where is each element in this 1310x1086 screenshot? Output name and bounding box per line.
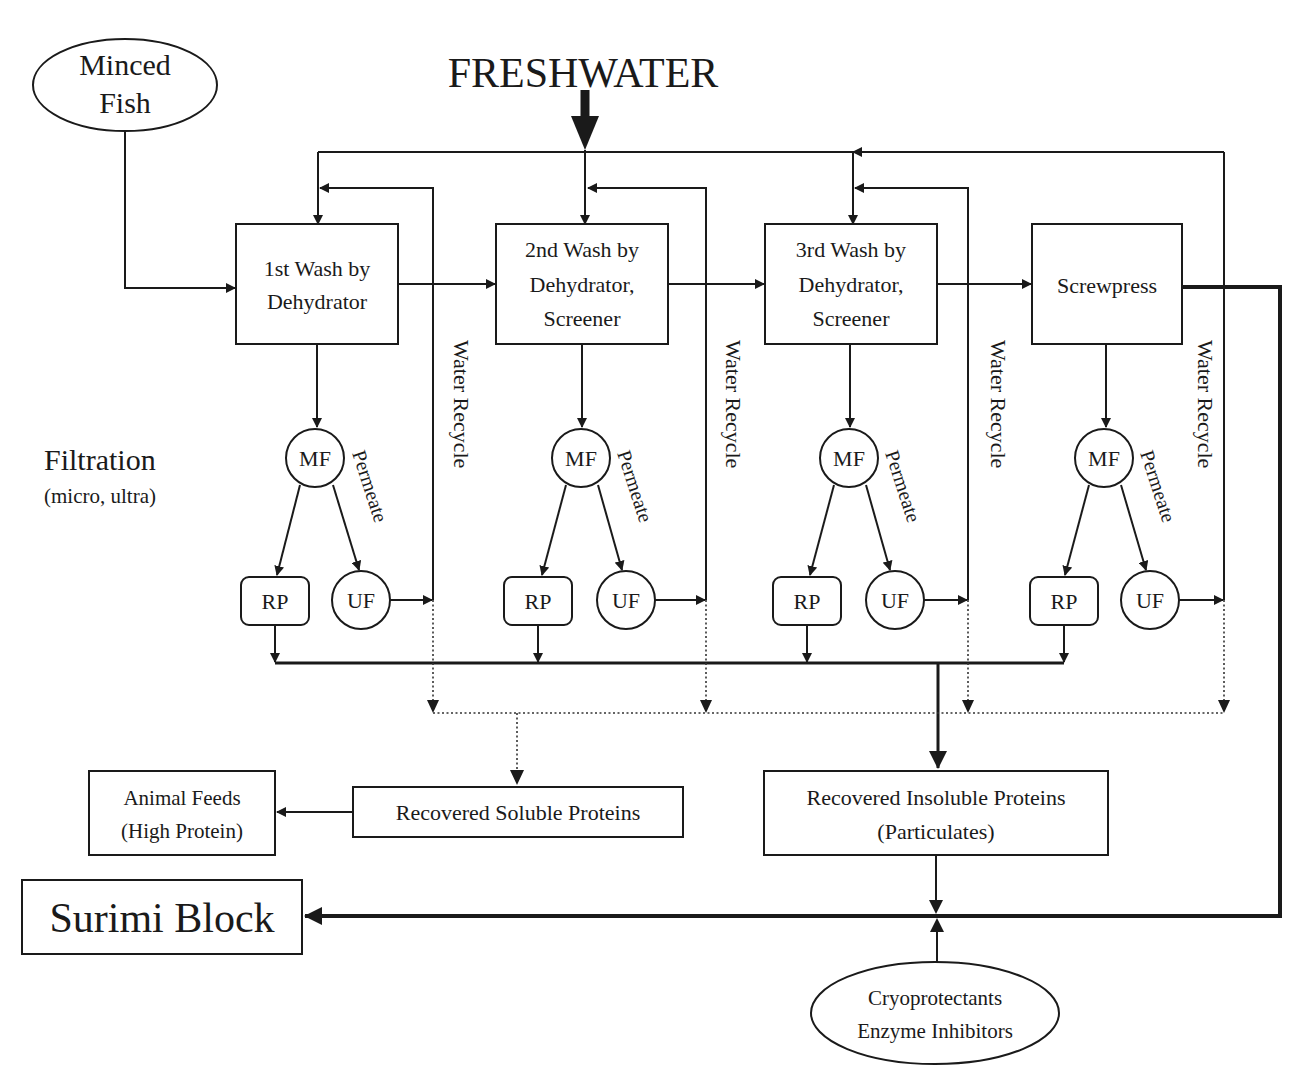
animal-feeds-label-2: (High Protein) bbox=[121, 819, 243, 843]
mf-label-3: MF bbox=[833, 446, 865, 471]
minced-fish-label-1: Minced bbox=[79, 48, 171, 81]
water-recycle-label-4: Water Recycle bbox=[1193, 340, 1218, 468]
mf-label-4: MF bbox=[1088, 446, 1120, 471]
surimi-block-box: Surimi Block bbox=[22, 880, 302, 954]
freshwater-label: FRESHWATER bbox=[448, 50, 719, 96]
stage-wash-3: 3rd Wash by Dehydrator, Screener bbox=[765, 224, 937, 344]
freshwater-arrow-head bbox=[571, 116, 599, 150]
surimi-block-label: Surimi Block bbox=[49, 895, 274, 941]
rp-label-4: RP bbox=[1051, 589, 1078, 614]
stage-wash-2: 2nd Wash by Dehydrator, Screener bbox=[496, 224, 668, 344]
additives-node: Cryoprotectants Enzyme Inhibitors bbox=[811, 962, 1059, 1064]
animal-feeds-box: Animal Feeds (High Protein) bbox=[89, 771, 275, 855]
uf-label-2: UF bbox=[612, 588, 640, 613]
rp-label-2: RP bbox=[525, 589, 552, 614]
stage-3-line-3: Screener bbox=[813, 306, 891, 331]
animal-feeds-label-1: Animal Feeds bbox=[123, 786, 240, 810]
surimi-arrow-head bbox=[304, 907, 322, 925]
additives-label-1: Cryoprotectants bbox=[868, 986, 1002, 1010]
stage-2-line-3: Screener bbox=[544, 306, 622, 331]
soluble-proteins-box: Recovered Soluble Proteins bbox=[353, 787, 683, 837]
uf-label-1: UF bbox=[347, 588, 375, 613]
stage-1-line-1: 1st Wash by bbox=[264, 256, 371, 281]
stage-3-line-2: Dehydrator, bbox=[799, 272, 904, 297]
stage-2-line-2: Dehydrator, bbox=[530, 272, 635, 297]
stage-screwpress: Screwpress bbox=[1032, 224, 1182, 344]
filtration-unit-1: MF Permeate RP UF bbox=[241, 344, 432, 662]
insoluble-proteins-box: Recovered Insoluble Proteins (Particulat… bbox=[764, 771, 1108, 855]
mf-label-2: MF bbox=[565, 446, 597, 471]
surimi-process-flow-diagram: Minced Fish FRESHWATER 1st Wash by Dehyd… bbox=[0, 0, 1310, 1086]
filtration-sublabel: (micro, ultra) bbox=[44, 484, 156, 508]
stage-1-line-2: Dehydrator bbox=[267, 289, 368, 314]
soluble-proteins-label: Recovered Soluble Proteins bbox=[396, 800, 640, 825]
permeate-label-4: Permeate bbox=[1136, 447, 1180, 525]
filtration-label: Filtration bbox=[44, 443, 156, 476]
insoluble-proteins-label-1: Recovered Insoluble Proteins bbox=[806, 785, 1065, 810]
stage-3-line-1: 3rd Wash by bbox=[796, 237, 906, 262]
stage-wash-1: 1st Wash by Dehydrator bbox=[236, 224, 398, 344]
permeate-label-1: Permeate bbox=[348, 447, 392, 525]
uf-label-4: UF bbox=[1136, 588, 1164, 613]
stage-2-line-1: 2nd Wash by bbox=[525, 237, 639, 262]
permeate-label-3: Permeate bbox=[881, 447, 925, 525]
filtration-unit-2: MF Permeate RP UF bbox=[504, 344, 705, 662]
minced-fish-node: Minced Fish bbox=[33, 39, 217, 131]
minced-fish-to-wash1-arrow bbox=[125, 131, 235, 288]
stage-4-line-1: Screwpress bbox=[1057, 273, 1157, 298]
water-recycle-label-1: Water Recycle bbox=[449, 340, 474, 468]
permeate-label-2: Permeate bbox=[613, 447, 657, 525]
filtration-unit-3: MF Permeate RP UF bbox=[773, 344, 967, 662]
mf-label-1: MF bbox=[299, 446, 331, 471]
rp-label-1: RP bbox=[262, 589, 289, 614]
rp-label-3: RP bbox=[794, 589, 821, 614]
uf-label-3: UF bbox=[881, 588, 909, 613]
water-recycle-label-3: Water Recycle bbox=[986, 340, 1011, 468]
insoluble-proteins-label-2: (Particulates) bbox=[877, 819, 994, 844]
minced-fish-label-2: Fish bbox=[99, 86, 151, 119]
water-recycle-label-2: Water Recycle bbox=[721, 340, 746, 468]
additives-label-2: Enzyme Inhibitors bbox=[857, 1019, 1013, 1043]
